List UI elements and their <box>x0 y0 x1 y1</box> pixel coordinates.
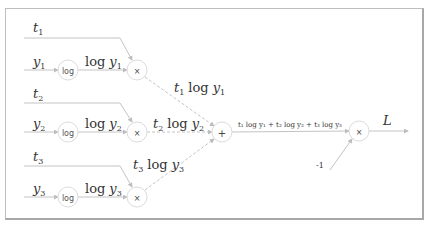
edge-label-t3-log-y3: t3logy3 <box>133 157 184 174</box>
log-node-3-label: log <box>62 194 74 203</box>
log-node-2: log <box>58 122 78 142</box>
edge-label-sum: t₁ log y₁ + t₂ log y₂ + t₃ log y₃ <box>238 121 342 129</box>
edge-add-mulfinal <box>232 131 349 132</box>
input-label-t3: t3 <box>33 149 43 166</box>
edge-label-log-y1: logy1 <box>85 54 122 71</box>
log-node-3: log <box>58 187 78 207</box>
edge-label-neg-one: -1 <box>316 161 324 170</box>
mul-node-3-label: × <box>134 194 141 203</box>
log-node-1-label: log <box>62 67 74 76</box>
log-node-2-label: log <box>62 129 74 138</box>
input-label-y1: y1 <box>32 54 45 71</box>
mul-node-final: × <box>349 121 369 141</box>
mul-node-2-label: × <box>134 129 141 138</box>
mul-node-1: × <box>127 60 147 80</box>
edge-t1-mul1 <box>120 38 132 60</box>
edge-label-t2-log-y2: t2logy2 <box>153 116 204 133</box>
input-label-t1: t1 <box>33 20 43 37</box>
computational-graph: log × log × log × + × t1 y1 t2 y2 t3 y3 … <box>0 0 429 226</box>
edge-label-log-y2: logy2 <box>85 116 122 133</box>
mul-node-2: × <box>127 122 147 142</box>
edge-label-t1-log-y1: t1logy1 <box>174 80 225 97</box>
edge-t3-mul3 <box>120 166 132 187</box>
mul-node-3: × <box>127 187 147 207</box>
add-node-label: + <box>218 128 226 139</box>
mul-node-1-label: × <box>134 67 141 76</box>
input-label-y3: y3 <box>32 181 45 198</box>
edge-negone-mulfinal <box>330 139 352 170</box>
edge-label-log-y3: logy3 <box>85 181 122 198</box>
output-label-L: L <box>382 113 392 128</box>
log-node-1: log <box>58 60 78 80</box>
add-node: + <box>212 122 232 142</box>
edge-t2-mul2 <box>120 103 132 122</box>
input-label-t2: t2 <box>33 86 43 103</box>
input-label-y2: y2 <box>32 116 45 133</box>
mul-node-final-label: × <box>356 128 363 137</box>
